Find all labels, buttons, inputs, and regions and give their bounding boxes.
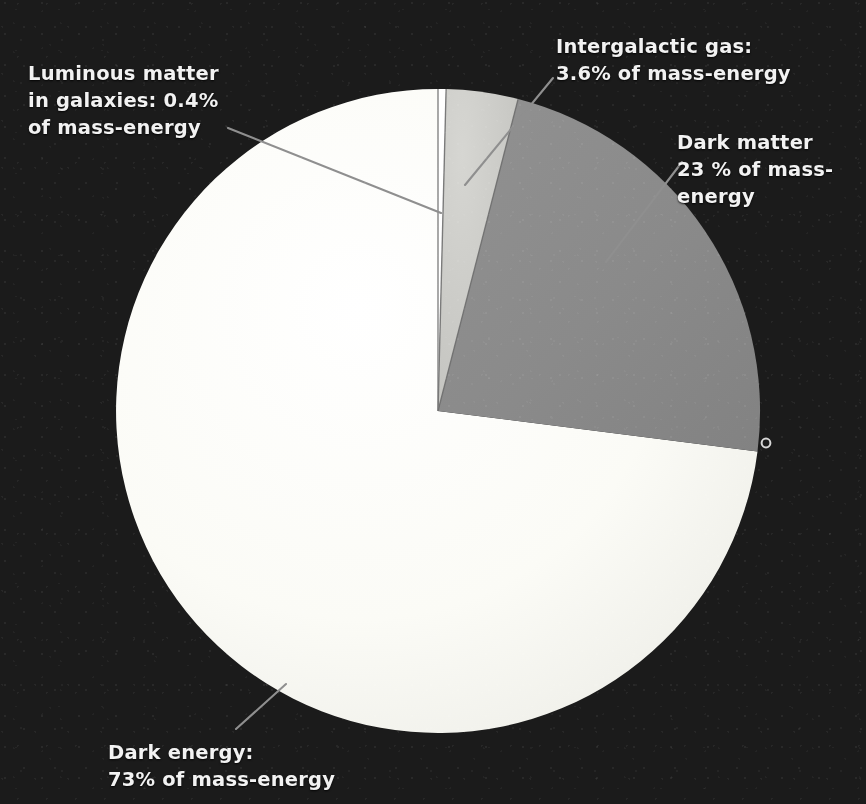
leader-dark-energy <box>236 684 286 729</box>
edge-marker-dot <box>762 439 771 448</box>
label-dark-matter: Dark matter 23 % of mass- energy <box>677 129 857 210</box>
label-luminous-matter: Luminous matter in galaxies: 0.4% of mas… <box>28 60 278 141</box>
label-dark-energy: Dark energy: 73% of mass-energy <box>108 739 408 793</box>
label-intergalactic-gas: Intergalactic gas: 3.6% of mass-energy <box>556 33 836 87</box>
pie-chart-figure: Luminous matter in galaxies: 0.4% of mas… <box>0 0 866 804</box>
